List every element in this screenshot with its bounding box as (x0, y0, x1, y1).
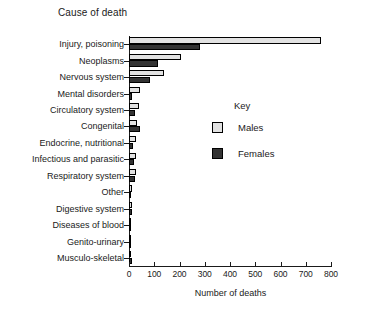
category-label: Endocrine, nutritional (0, 138, 124, 148)
bar-males (129, 136, 136, 142)
legend-label-males: Males (238, 122, 263, 133)
category-label: Other (0, 187, 124, 197)
category-label: Injury, poisoning (0, 39, 124, 49)
x-axis-tick (230, 262, 231, 267)
legend-label-females: Females (238, 148, 274, 159)
bar-males (129, 202, 132, 208)
x-axis-tick (306, 262, 307, 267)
bar-females (129, 241, 131, 247)
x-axis-tick-label: 100 (147, 269, 161, 279)
bar-males (129, 37, 321, 43)
bar-males (129, 185, 132, 191)
bar-males (129, 54, 181, 60)
bar-males (129, 251, 131, 257)
bar-males (129, 103, 139, 109)
bar-females (129, 44, 200, 50)
bar-males (129, 218, 131, 224)
bar-females (129, 225, 131, 231)
bar-females (129, 159, 134, 165)
legend-swatch-females-icon (212, 148, 223, 159)
bar-females (129, 209, 132, 215)
bar-males (129, 153, 136, 159)
x-axis-tick (154, 262, 155, 267)
x-axis-tick (129, 262, 130, 267)
x-axis-tick-label: 300 (198, 269, 212, 279)
bar-females (129, 126, 140, 132)
category-label: Genito-urinary (0, 237, 124, 247)
category-label: Nervous system (0, 72, 124, 82)
bar-females (129, 176, 135, 182)
category-label: Neoplasms (0, 56, 124, 66)
chart-title: Cause of death (58, 7, 127, 18)
category-label: Circulatory system (0, 105, 124, 115)
bar-females (129, 77, 150, 83)
bar-males (129, 120, 137, 126)
bar-females (129, 60, 158, 66)
legend-title: Key (234, 100, 250, 111)
category-label: Infectious and parasitic (0, 154, 124, 164)
x-axis-tick (331, 262, 332, 267)
category-label: Digestive system (0, 204, 124, 214)
x-axis-title: Number of deaths (129, 288, 332, 298)
x-axis-tick-label: 700 (299, 269, 313, 279)
bar-females (129, 143, 133, 149)
x-axis-tick-label: 200 (172, 269, 186, 279)
bar-males (129, 169, 136, 175)
bar-chart: Cause of death Injury, poisoningNeoplasm… (0, 0, 381, 317)
category-label: Congenital (0, 121, 124, 131)
category-label: Diseases of blood (0, 220, 124, 230)
x-axis-tick-label: 0 (127, 269, 132, 279)
x-axis-tick (180, 262, 181, 267)
bar-males (129, 70, 164, 76)
x-axis-tick (281, 262, 282, 267)
x-axis-tick-label: 500 (248, 269, 262, 279)
legend-swatch-males-icon (212, 122, 223, 133)
x-axis-tick (255, 262, 256, 267)
bar-females (129, 93, 132, 99)
bar-females (129, 192, 131, 198)
x-axis-tick (205, 262, 206, 267)
category-label: Musculo-skeletal (0, 253, 124, 263)
bar-males (129, 87, 140, 93)
category-label: Mental disorders (0, 89, 124, 99)
x-axis-tick-label: 800 (324, 269, 338, 279)
category-label: Respiratory system (0, 171, 124, 181)
x-axis-tick-label: 400 (223, 269, 237, 279)
x-axis-tick-label: 600 (273, 269, 287, 279)
bar-males (129, 235, 131, 241)
bar-females (129, 110, 135, 116)
